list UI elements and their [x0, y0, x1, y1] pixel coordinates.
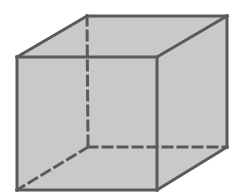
cube-canvas	[0, 0, 235, 196]
cube-silhouette	[17, 16, 227, 190]
hidden-edge-back-top-left-to-back-bottom-left	[87, 16, 88, 147]
cube-diagram	[0, 0, 235, 196]
